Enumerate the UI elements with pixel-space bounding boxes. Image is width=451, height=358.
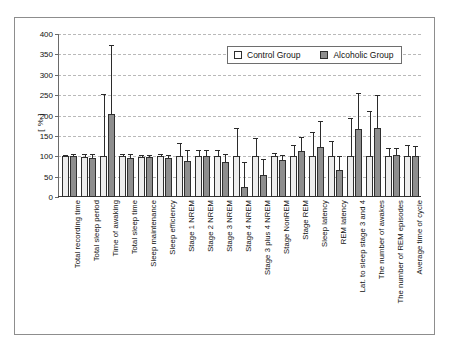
error-bar-line [313, 133, 314, 157]
error-bar-cap [147, 155, 152, 156]
error-bar-cap [90, 154, 95, 155]
error-bar-cap [128, 154, 133, 155]
bar-alcoholic [393, 155, 401, 197]
bar-control [309, 156, 317, 197]
bar-alcoholic [184, 161, 192, 197]
bar-group [117, 34, 136, 197]
bar-alcoholic [412, 156, 420, 197]
bar-control [233, 156, 241, 197]
error-bar-line [396, 149, 397, 155]
error-bar-line [408, 146, 409, 157]
error-bar-cap [215, 150, 220, 151]
y-tick-label: 250 [40, 91, 53, 100]
error-bar-line [244, 163, 245, 187]
legend-item-alcoholic: Alcoholic Group [320, 50, 393, 60]
bar-alcoholic [127, 158, 135, 197]
x-axis-tick-label: Average time of cycle [415, 200, 424, 275]
error-bar-line [294, 146, 295, 156]
y-tick-label: 100 [40, 152, 53, 161]
bar-control [347, 156, 355, 197]
y-tick-label: 150 [40, 131, 53, 140]
error-bar-cap [348, 118, 353, 119]
x-axis-tick-label: Stage 3 NREM [225, 200, 234, 252]
error-bar-cap [367, 111, 372, 112]
bar-control [119, 156, 127, 197]
error-bar-line [73, 155, 74, 156]
bar-control [290, 156, 298, 197]
x-axis-tick-label: Lat. to sleep stage 3 and 4 [358, 200, 367, 292]
error-bar-cap [71, 154, 76, 155]
error-bar-line [92, 155, 93, 158]
error-bar-line [180, 144, 181, 157]
error-bar-line [370, 112, 371, 156]
error-bar-cap [242, 162, 247, 163]
bar-group [155, 34, 174, 197]
x-axis-tick-label: Total sleep time [130, 200, 139, 254]
bar-control [138, 157, 146, 197]
error-bar-cap [185, 150, 190, 151]
error-bar-line [218, 151, 219, 156]
y-tick-label: 50 [44, 172, 53, 181]
legend-swatch-alcoholic-icon [320, 51, 328, 59]
bar-alcoholic [70, 156, 78, 197]
error-bar-cap [337, 156, 342, 157]
y-tick-mark [55, 197, 59, 198]
y-tick-label: 300 [40, 70, 53, 79]
chart-legend: Control Group Alcoholic Group [227, 46, 402, 64]
error-bar-line [149, 156, 150, 158]
bar-alcoholic [336, 170, 344, 197]
bar-alcoholic [298, 151, 306, 197]
error-bar-cap [318, 121, 323, 122]
error-bar-line [263, 160, 264, 175]
bar-control [366, 156, 374, 197]
x-axis-tick-label: The number of REM episodes [396, 200, 405, 303]
bar-alcoholic [241, 187, 249, 197]
legend-swatch-control-icon [234, 51, 242, 59]
error-bar-line [389, 149, 390, 156]
error-bar-cap [204, 150, 209, 151]
error-bar-cap [356, 93, 361, 94]
error-bar-cap [109, 45, 114, 46]
error-bar-cap [329, 141, 334, 142]
bar-control [252, 156, 260, 197]
bar-group [174, 34, 193, 197]
bar-control [100, 156, 108, 197]
legend-item-control: Control Group [234, 50, 300, 60]
x-axis-tick-label: REM latency [339, 200, 348, 244]
error-bar-line [256, 139, 257, 156]
x-axis-tick-label: Stage 4 NREM [244, 200, 253, 252]
legend-label-control: Control Group [247, 50, 300, 60]
bar-control [328, 156, 336, 197]
error-bar-cap [413, 146, 418, 147]
bar-control [62, 156, 70, 197]
error-bar-line [187, 151, 188, 161]
error-bar-line [225, 155, 226, 162]
error-bar-line [199, 151, 200, 156]
error-bar-cap [394, 148, 399, 149]
error-bar-cap [272, 153, 277, 154]
bar-control [271, 156, 279, 197]
bar-alcoholic [355, 129, 363, 197]
bar-group [136, 34, 155, 197]
error-bar-cap [253, 138, 258, 139]
error-bar-cap [177, 143, 182, 144]
x-axis-tick-label: Sleep efficiency [168, 200, 177, 255]
y-axis-title: [ % ] [36, 93, 45, 153]
x-axis-tick-label: Stage 2 NREM [206, 200, 215, 252]
error-bar-line [104, 95, 105, 156]
error-bar-line [161, 155, 162, 156]
legend-label-alcoholic: Alcoholic Group [333, 50, 393, 60]
error-bar-line [377, 96, 378, 128]
y-tick-label: 400 [40, 30, 53, 39]
error-bar-line [130, 155, 131, 157]
bar-alcoholic [108, 114, 116, 197]
error-bar-cap [375, 95, 380, 96]
x-axis-tick-label: Sleep latency [320, 200, 329, 247]
error-bar-cap [120, 154, 125, 155]
error-bar-cap [158, 154, 163, 155]
error-bar-cap [234, 128, 239, 129]
error-bar-line [358, 94, 359, 129]
bar-control [157, 156, 165, 197]
bar-alcoholic [222, 162, 230, 197]
error-bar-line [206, 151, 207, 156]
